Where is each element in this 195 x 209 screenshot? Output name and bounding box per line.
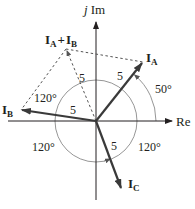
imag-axis-label: jIm: [82, 2, 105, 17]
angle-label-120-left: 120°: [32, 140, 55, 154]
phasor-diagram: jIm Re IA IB IC IA+IB 5 5 5 5 50° 120° 1…: [0, 0, 195, 209]
label-ia: IA: [146, 50, 158, 67]
angle-label-50: 50°: [155, 82, 172, 96]
angle-label-120-top: 120°: [34, 91, 57, 105]
angle-label-120-right: 120°: [138, 140, 161, 154]
label-ic: IC: [128, 176, 140, 193]
angle-arc-50: [135, 75, 156, 121]
dashed-line-sum-to-ia: [66, 49, 143, 62]
real-axis-label: Re: [176, 114, 191, 129]
magnitude-ib: 5: [70, 103, 76, 117]
label-ib: IB: [2, 102, 13, 119]
magnitude-ia: 5: [117, 69, 123, 83]
phasor-ib: [22, 110, 96, 121]
label-ia-plus-ib: IA+IB: [45, 32, 77, 49]
magnitude-ic: 5: [111, 139, 117, 153]
phasor-ic: [96, 121, 121, 188]
magnitude-sum: 5: [79, 71, 85, 85]
